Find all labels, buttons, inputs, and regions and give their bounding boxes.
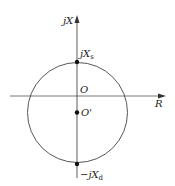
jxd-subscript: d	[99, 174, 104, 182]
jx-axis-label: jX	[61, 15, 74, 26]
point-jxs	[75, 60, 79, 64]
jxs-prefix: jX	[78, 48, 91, 59]
jxs-label: jXs	[78, 48, 94, 61]
jx-axis-arrow-icon	[75, 15, 80, 23]
jxd-label: −jXd	[80, 169, 104, 182]
impedance-diagram: jX R O O' jXs −jXd	[0, 0, 175, 186]
jxs-subscript: s	[90, 53, 94, 61]
point-center	[75, 110, 79, 114]
point-jxd	[75, 162, 79, 166]
center-label: O'	[81, 107, 92, 118]
jxd-prefix: −jX	[80, 169, 99, 180]
origin-label: O	[80, 84, 88, 95]
r-axis-label: R	[154, 98, 163, 109]
